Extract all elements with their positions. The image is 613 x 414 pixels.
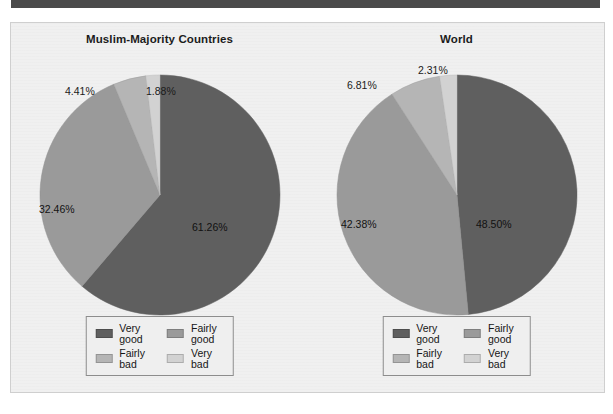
- legend-item-very-good-right[interactable]: Very good: [392, 323, 448, 344]
- legend-swatch-very-good-icon: [95, 329, 112, 338]
- legend-label-very-bad: Very bad: [191, 348, 223, 369]
- legend-swatch-fairly-bad-icon: [392, 354, 409, 363]
- pie-svg-left: [36, 71, 284, 319]
- pie-label-very-good-left: 61.26%: [192, 221, 228, 233]
- legend-label-fairly-bad: Fairly bad: [416, 348, 448, 369]
- pie-graphic-right: [333, 71, 581, 319]
- legend-item-very-bad-right[interactable]: Very bad: [464, 348, 520, 369]
- legend-left: Very good Fairly good Fairly bad Very ba…: [85, 316, 234, 376]
- legend-swatch-fairly-bad-icon: [95, 354, 112, 363]
- legend-swatch-very-good-icon: [392, 329, 409, 338]
- legend-swatch-fairly-good-icon: [167, 329, 184, 338]
- pie-label-fairly-bad-left: 4.41%: [65, 85, 95, 97]
- legend-item-very-good-left[interactable]: Very good: [95, 323, 151, 344]
- chart-title-right: World: [308, 33, 605, 45]
- chart-title-left: Muslim-Majority Countries: [11, 33, 308, 45]
- legend-label-fairly-bad: Fairly bad: [119, 348, 151, 369]
- pie-label-fairly-bad-right: 6.81%: [347, 79, 377, 91]
- legend-label-fairly-good: Fairly good: [191, 323, 223, 344]
- pie-label-fairly-good-right: 42.38%: [341, 218, 377, 230]
- pie-svg-right: [333, 71, 581, 319]
- pie-label-very-bad-left: 1.88%: [146, 85, 176, 97]
- legend-label-very-bad: Very bad: [488, 348, 520, 369]
- legend-item-fairly-bad-right[interactable]: Fairly bad: [392, 348, 448, 369]
- pie-label-very-bad-right: 2.31%: [418, 64, 448, 76]
- pie-label-very-good-right: 48.50%: [476, 218, 512, 230]
- legend-swatch-fairly-good-icon: [464, 329, 481, 338]
- legend-item-fairly-good-left[interactable]: Fairly good: [167, 323, 223, 344]
- legend-label-very-good: Very good: [119, 323, 151, 344]
- legend-label-fairly-good: Fairly good: [488, 323, 520, 344]
- pie-chart-world: World 6.81% 2.31% 42.38% 48.50% Very goo…: [308, 23, 605, 392]
- pie-chart-muslim-majority-countries: Muslim-Majority Countries 4.41% 1.88% 32…: [11, 23, 308, 392]
- pie-graphic-left: [36, 71, 284, 319]
- pie-slice-very-good-right[interactable]: [457, 75, 577, 314]
- top-divider-rule: [11, 0, 600, 8]
- pie-label-fairly-good-left: 32.46%: [39, 203, 75, 215]
- legend-right: Very good Fairly good Fairly bad Very ba…: [382, 316, 531, 376]
- legend-item-fairly-bad-left[interactable]: Fairly bad: [95, 348, 151, 369]
- legend-item-very-bad-left[interactable]: Very bad: [167, 348, 223, 369]
- figure-panel: Muslim-Majority Countries 4.41% 1.88% 32…: [10, 22, 605, 393]
- legend-swatch-very-bad-icon: [167, 354, 184, 363]
- legend-item-fairly-good-right[interactable]: Fairly good: [464, 323, 520, 344]
- legend-swatch-very-bad-icon: [464, 354, 481, 363]
- legend-label-very-good: Very good: [416, 323, 448, 344]
